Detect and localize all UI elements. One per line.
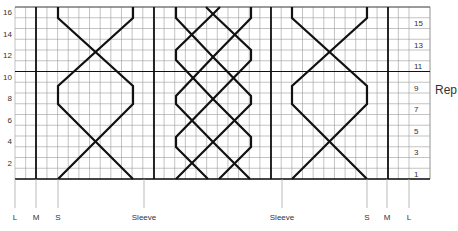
row-number-left: 16 <box>3 8 12 17</box>
row-number-right: 5 <box>414 127 419 136</box>
row-number-right: 1 <box>414 170 419 179</box>
row-number-left: 12 <box>3 51 12 60</box>
chart-labels: LMSSleeveSleeveSML2468101214161357911131… <box>3 8 423 222</box>
size-marker-label: L <box>407 213 412 222</box>
size-marker-lines <box>15 179 409 208</box>
rep-label: Rep <box>435 83 457 97</box>
row-number-right: 13 <box>414 41 423 50</box>
size-marker-label: S <box>364 213 369 222</box>
size-marker-label: Sleeve <box>132 213 157 222</box>
knitting-chart: LMSSleeveSleeveSML2468101214161357911131… <box>0 0 458 231</box>
row-number-left: 8 <box>8 94 13 103</box>
size-marker-label: M <box>384 213 391 222</box>
row-number-left: 10 <box>3 73 12 82</box>
row-number-left: 6 <box>8 116 13 125</box>
row-number-right: 7 <box>414 105 419 114</box>
row-number-right: 9 <box>414 84 419 93</box>
size-marker-label: M <box>33 213 40 222</box>
size-marker-label: Sleeve <box>270 213 295 222</box>
size-marker-label: S <box>55 213 60 222</box>
row-number-right: 3 <box>414 148 419 157</box>
row-number-left: 4 <box>8 137 13 146</box>
row-number-left: 14 <box>3 30 12 39</box>
size-marker-label: L <box>13 213 18 222</box>
row-number-right: 11 <box>414 62 423 71</box>
row-number-right: 15 <box>414 19 423 28</box>
row-number-left: 2 <box>8 159 13 168</box>
